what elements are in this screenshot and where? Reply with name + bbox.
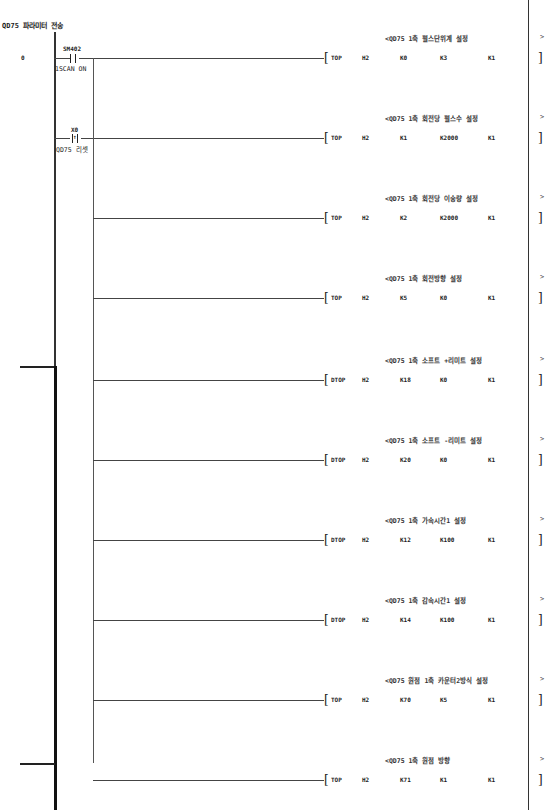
instruction-close-bracket: ] <box>538 133 543 143</box>
wire <box>93 620 324 621</box>
instruction-mnemonic[interactable]: DTOP <box>331 456 345 463</box>
instruction-close-bracket: ] <box>538 455 543 465</box>
rung-comment: <QD75 원점 1축 카운터2방식 설정 <box>385 675 488 685</box>
wire <box>93 780 324 781</box>
instruction-open-bracket: [ <box>324 775 329 785</box>
comment-continue-icon: > <box>540 595 544 603</box>
comment-continue-icon: > <box>540 755 544 763</box>
instruction-close-bracket: ] <box>538 293 543 303</box>
instruction-operand-2[interactable]: K70 <box>400 696 411 703</box>
instruction-operand-3[interactable]: K2000 <box>440 214 458 221</box>
instruction-operand-3[interactable]: K1 <box>440 776 447 783</box>
instruction-open-bracket: [ <box>324 293 329 303</box>
instruction-mnemonic[interactable]: DTOP <box>331 536 345 543</box>
contact-device-sm402: SM402 <box>63 45 81 52</box>
rail-stub-lower <box>20 763 55 765</box>
instruction-close-bracket: ] <box>538 375 543 385</box>
rung-comment: <QD75 1축 회전당 이송량 설정 <box>385 193 478 203</box>
instruction-operand-2[interactable]: K20 <box>400 456 411 463</box>
wire <box>93 298 324 299</box>
contact-comment-x0: QD75 리셋 <box>56 144 88 154</box>
instruction-operand-4[interactable]: K1 <box>488 294 495 301</box>
instruction-open-bracket: [ <box>324 695 329 705</box>
wire <box>79 58 324 59</box>
instruction-operand-4[interactable]: K1 <box>488 456 495 463</box>
instruction-operand-4[interactable]: K1 <box>488 536 495 543</box>
instruction-operand-3[interactable]: K5 <box>440 696 447 703</box>
instruction-operand-1[interactable]: H2 <box>362 536 369 543</box>
instruction-operand-3[interactable]: K100 <box>440 616 454 623</box>
instruction-mnemonic[interactable]: TOP <box>331 214 342 221</box>
instruction-operand-2[interactable]: K1 <box>400 134 407 141</box>
instruction-open-bracket: [ <box>324 455 329 465</box>
instruction-operand-2[interactable]: K0 <box>400 54 407 61</box>
rung-comment: <QD75 1축 펄스단위계 설정 <box>385 33 468 43</box>
instruction-operand-3[interactable]: K2000 <box>440 134 458 141</box>
instruction-open-bracket: [ <box>324 615 329 625</box>
rung-comment: <QD75 1축 소프트 -리미트 설정 <box>385 435 482 445</box>
instruction-close-bracket: ] <box>538 535 543 545</box>
normally-open-contact-icon[interactable] <box>68 54 78 63</box>
comment-continue-icon: > <box>540 515 544 523</box>
instruction-operand-3[interactable]: K0 <box>440 376 447 383</box>
instruction-operand-4[interactable]: K1 <box>488 696 495 703</box>
instruction-operand-3[interactable]: K3 <box>440 54 447 61</box>
instruction-operand-2[interactable]: K18 <box>400 376 411 383</box>
instruction-operand-2[interactable]: K71 <box>400 776 411 783</box>
contact-device-x0: X0 <box>71 126 78 133</box>
instruction-close-bracket: ] <box>538 775 543 785</box>
instruction-mnemonic[interactable]: TOP <box>331 696 342 703</box>
instruction-mnemonic[interactable]: DTOP <box>331 616 345 623</box>
comment-continue-icon: > <box>540 435 544 443</box>
instruction-operand-1[interactable]: H2 <box>362 776 369 783</box>
instruction-operand-2[interactable]: K2 <box>400 214 407 221</box>
instruction-mnemonic[interactable]: TOP <box>331 294 342 301</box>
instruction-operand-1[interactable]: H2 <box>362 214 369 221</box>
program-title: QD75 파라미터 전송 <box>2 20 63 30</box>
instruction-mnemonic[interactable]: TOP <box>331 134 342 141</box>
instruction-mnemonic[interactable]: DTOP <box>331 376 345 383</box>
instruction-mnemonic[interactable]: TOP <box>331 54 342 61</box>
contact-comment-sm402: 1SCAN ON <box>55 65 86 73</box>
instruction-operand-4[interactable]: K1 <box>488 776 495 783</box>
wire <box>54 138 70 139</box>
instruction-operand-2[interactable]: K14 <box>400 616 411 623</box>
instruction-operand-1[interactable]: H2 <box>362 456 369 463</box>
instruction-operand-3[interactable]: K100 <box>440 536 454 543</box>
comment-continue-icon: > <box>540 113 544 121</box>
instruction-open-bracket: [ <box>324 53 329 63</box>
comment-continue-icon: > <box>540 273 544 281</box>
rail-stub-upper <box>20 366 55 368</box>
rung-comment: <QD75 1축 원점 방향 <box>385 755 450 765</box>
instruction-operand-4[interactable]: K1 <box>488 616 495 623</box>
instruction-open-bracket: [ <box>324 213 329 223</box>
instruction-close-bracket: ] <box>538 695 543 705</box>
instruction-operand-1[interactable]: H2 <box>362 294 369 301</box>
wire <box>93 460 324 461</box>
instruction-operand-1[interactable]: H2 <box>362 616 369 623</box>
instruction-operand-3[interactable]: K0 <box>440 294 447 301</box>
instruction-operand-3[interactable]: K0 <box>440 456 447 463</box>
rung-comment: <QD75 1축 소프트 +리미트 설정 <box>385 355 482 365</box>
instruction-operand-1[interactable]: H2 <box>362 134 369 141</box>
comment-continue-icon: > <box>540 33 544 41</box>
instruction-close-bracket: ] <box>538 615 543 625</box>
instruction-open-bracket: [ <box>324 133 329 143</box>
instruction-operand-4[interactable]: K1 <box>488 134 495 141</box>
rung-comment: <QD75 1축 가속시간1 설정 <box>385 515 466 525</box>
instruction-operand-1[interactable]: H2 <box>362 54 369 61</box>
rising-edge-contact-icon[interactable]: ↑ <box>70 134 80 143</box>
instruction-operand-4[interactable]: K1 <box>488 54 495 61</box>
wire <box>93 540 324 541</box>
instruction-operand-4[interactable]: K1 <box>488 376 495 383</box>
instruction-close-bracket: ] <box>538 53 543 63</box>
instruction-operand-2[interactable]: K12 <box>400 536 411 543</box>
instruction-operand-1[interactable]: H2 <box>362 376 369 383</box>
instruction-operand-2[interactable]: K5 <box>400 294 407 301</box>
rail-thick-segment <box>54 366 57 810</box>
instruction-mnemonic[interactable]: TOP <box>331 776 342 783</box>
rung-comment: <QD75 1축 회전당 펄스수 설정 <box>385 113 478 123</box>
step-number: 0 <box>21 54 25 61</box>
instruction-operand-1[interactable]: H2 <box>362 696 369 703</box>
instruction-operand-4[interactable]: K1 <box>488 214 495 221</box>
